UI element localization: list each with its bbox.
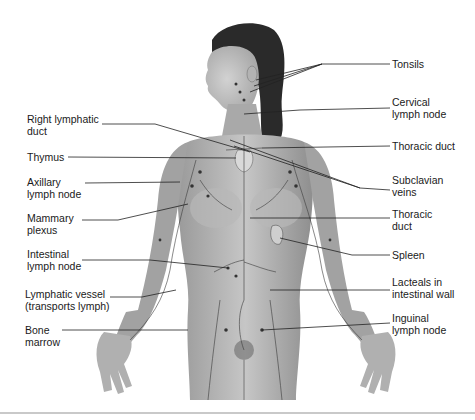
label-intestinal-lymph-node: Intestinal lymph node <box>27 248 81 272</box>
label-tonsils: Tonsils <box>392 58 424 70</box>
torso <box>178 135 313 401</box>
label-inguinal-lymph-node: Inguinal lymph node <box>392 312 446 336</box>
arm-left-side <box>304 142 384 366</box>
ear <box>247 66 257 82</box>
label-mammary-plexus: Mammary plexus <box>27 212 74 236</box>
label-thoracic-duct-upper: Thoracic duct <box>392 140 455 152</box>
neck <box>222 104 262 136</box>
label-lacteals: Lacteals in intestinal wall <box>392 276 454 300</box>
label-spleen: Spleen <box>392 249 425 261</box>
label-subclavian-veins: Subclavian veins <box>392 174 443 198</box>
label-right-lymphatic-duct: Right lymphatic duct <box>27 113 99 137</box>
label-axillary-lymph-node: Axillary lymph node <box>27 176 81 200</box>
label-thymus: Thymus <box>27 151 64 163</box>
bottom-divider <box>0 412 475 414</box>
label-lymphatic-vessel: Lymphatic vessel (transports lymph) <box>25 288 110 312</box>
hand-left <box>360 332 395 394</box>
hand-right <box>97 332 132 394</box>
arm-right-side <box>108 142 188 366</box>
label-thoracic-duct-lower: Thoracic duct <box>392 208 432 232</box>
label-bone-marrow: Bone marrow <box>25 324 60 348</box>
lymphatic-system-diagram: Right lymphatic duct Thymus Axillary lym… <box>0 0 475 420</box>
label-cervical-lymph-node: Cervical lymph node <box>392 96 446 120</box>
